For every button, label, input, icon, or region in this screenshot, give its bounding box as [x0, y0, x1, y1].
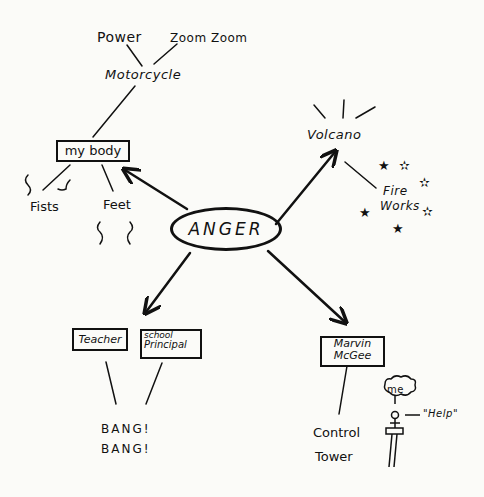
star-icon: ✫	[399, 158, 410, 173]
line-zoom-motorcycle	[154, 44, 177, 64]
motion-mark-feet-right	[128, 222, 133, 244]
volcano-ray-left	[314, 105, 325, 118]
line-motorcycle-body	[93, 86, 135, 137]
volcano-ray-right	[356, 107, 375, 118]
speech-help: "Help"	[423, 409, 458, 419]
node-fists[interactable]: Fists	[30, 200, 59, 213]
line-volcano-fireworks	[345, 162, 376, 188]
arrow-to-volcano	[276, 152, 335, 224]
line-power-motorcycle	[127, 45, 142, 66]
node-teacher-label: Teacher	[78, 333, 121, 346]
line-principal-bang	[146, 363, 162, 404]
thought-bubble-me: me	[387, 385, 404, 395]
node-motorcycle[interactable]: Motorcycle	[105, 68, 181, 81]
motion-mark-fists-right	[58, 180, 70, 190]
node-control-tower-line2[interactable]: Tower	[315, 450, 353, 463]
motion-mark-feet-left	[98, 222, 103, 244]
star-icon: ★	[359, 205, 371, 220]
line-teacher-bang	[106, 362, 116, 404]
arrow-to-my-body	[125, 170, 187, 209]
node-my-body[interactable]: my body	[56, 140, 130, 162]
center-node-anger[interactable]: ANGER	[170, 207, 282, 251]
line-marvin-tower	[339, 366, 347, 414]
node-control-tower-line1[interactable]: Control	[313, 426, 360, 439]
node-marvin-line2: McGee	[322, 350, 383, 362]
node-school-principal[interactable]: school Principal	[140, 329, 202, 359]
line-body-feet	[102, 165, 113, 191]
node-feet[interactable]: Feet	[103, 198, 131, 211]
node-volcano[interactable]: Volcano	[307, 128, 362, 141]
center-node-label: ANGER	[188, 219, 263, 239]
node-my-body-label: my body	[65, 143, 122, 158]
arrow-to-marvin	[268, 251, 345, 322]
motion-mark-fists-left	[26, 175, 31, 195]
node-power[interactable]: Power	[97, 30, 142, 44]
volcano-ray-mid	[343, 100, 344, 118]
node-fire-works-line1[interactable]: Fire	[383, 185, 408, 197]
star-icon: ★	[392, 221, 404, 236]
node-principal-line2: Principal	[144, 340, 200, 351]
star-icon: ✫	[422, 204, 433, 219]
star-icon: ✫	[419, 175, 430, 190]
node-bang-line2[interactable]: BANG!	[101, 443, 151, 455]
node-marvin-mcgee[interactable]: Marvin McGee	[320, 336, 385, 367]
node-fire-works-line2[interactable]: Works	[380, 200, 420, 212]
arrow-to-teacher	[146, 253, 190, 312]
node-bang-line1[interactable]: BANG!	[101, 423, 151, 435]
node-marvin-line1: Marvin	[322, 338, 383, 350]
node-teacher[interactable]: Teacher	[72, 328, 128, 351]
star-icon: ★	[378, 158, 390, 173]
node-zoom-zoom[interactable]: Zoom Zoom	[170, 32, 248, 44]
